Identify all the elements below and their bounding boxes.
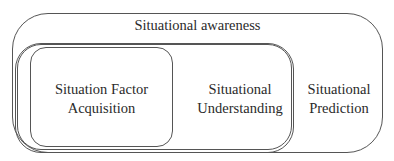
prediction-label-line2: Prediction <box>296 99 382 118</box>
understanding-label-line1: Situational <box>190 80 290 99</box>
understanding-label-line2: Understanding <box>190 99 290 118</box>
acquisition-label: Situation Factor Acquisition <box>30 80 173 118</box>
understanding-label: Situational Understanding <box>190 80 290 118</box>
acquisition-label-line1: Situation Factor <box>30 80 173 99</box>
acquisition-label-line2: Acquisition <box>30 99 173 118</box>
diagram-title: Situational awareness <box>12 16 383 35</box>
prediction-label-line1: Situational <box>296 80 382 99</box>
prediction-label: Situational Prediction <box>296 80 382 118</box>
